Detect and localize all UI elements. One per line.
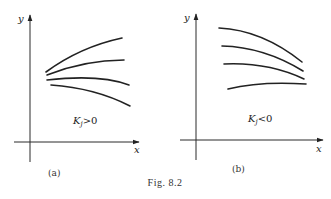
panel-b: y x Kj<0 (b) bbox=[180, 12, 323, 174]
y-axis-label-a: y bbox=[17, 13, 24, 24]
curve-b-4 bbox=[228, 83, 306, 89]
figure-caption: Fig. 8.2 bbox=[148, 177, 183, 188]
curve-family-b bbox=[219, 28, 306, 89]
condition-label-a: Kj>0 bbox=[72, 115, 97, 128]
x-axis-label-b: x bbox=[316, 143, 322, 154]
curve-b-1 bbox=[219, 28, 302, 62]
curve-a-3 bbox=[47, 78, 129, 85]
panel-label-b: (b) bbox=[232, 164, 245, 174]
x-axis-label-a: x bbox=[134, 144, 140, 155]
curve-b-3 bbox=[224, 64, 304, 79]
curve-b-2 bbox=[222, 46, 303, 71]
figure-8-2: y x Kj>0 (a) y x Kj<0 (b) Fig. 8.2 bbox=[0, 0, 331, 199]
y-axis-label-b: y bbox=[183, 12, 190, 23]
curve-a-1 bbox=[46, 38, 122, 72]
curve-a-2 bbox=[47, 60, 124, 75]
curve-family-a bbox=[46, 38, 130, 106]
panel-a: y x Kj>0 (a) bbox=[14, 13, 140, 178]
panel-label-a: (a) bbox=[48, 168, 60, 178]
condition-label-b: Kj<0 bbox=[247, 113, 272, 126]
curve-a-4 bbox=[51, 85, 130, 106]
